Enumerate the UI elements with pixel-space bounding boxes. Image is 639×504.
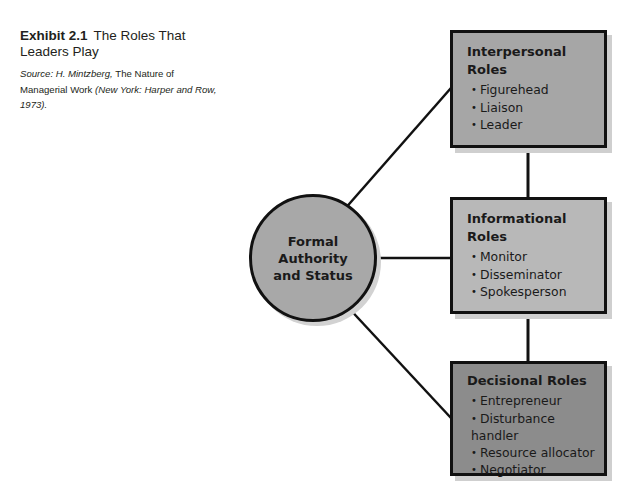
role-box-title: Informational Roles <box>467 210 604 246</box>
role-box-informational: Informational Roles •Monitor •Disseminat… <box>450 197 607 314</box>
bullet-icon: • <box>471 464 477 475</box>
role-item: •Leader <box>471 117 604 135</box>
role-list: •Monitor •Disseminator •Spokesperson <box>467 249 604 302</box>
role-item-label: Negotiator <box>480 462 546 477</box>
role-item-label: Spokesperson <box>480 284 567 299</box>
bullet-icon: • <box>471 286 477 297</box>
bullet-icon: • <box>471 413 477 424</box>
role-item-label: Entrepreneur <box>480 393 562 408</box>
role-item: •Spokesperson <box>471 284 604 302</box>
role-item: •Resource allocator <box>471 445 604 463</box>
role-item-label: Figurehead <box>480 82 549 97</box>
bullet-icon: • <box>471 269 477 280</box>
role-box-interpersonal: Interpersonal Roles •Figurehead •Liaison… <box>450 30 607 148</box>
role-item: •Negotiator <box>471 462 604 480</box>
role-item-label: Disseminator <box>480 267 562 282</box>
role-item-label: Liaison <box>480 100 523 115</box>
center-node-label: Formal Authority and Status <box>263 233 363 284</box>
connector-center-decisional <box>345 304 451 418</box>
role-box-title: Interpersonal Roles <box>467 43 604 79</box>
role-item: •Entrepreneur <box>471 393 604 411</box>
bullet-icon: • <box>471 119 477 130</box>
bullet-icon: • <box>471 447 477 458</box>
connector-center-interpersonal <box>343 88 451 211</box>
role-item: •Figurehead <box>471 82 604 100</box>
role-item: •Disturbance handler <box>471 411 604 445</box>
role-item-label: Leader <box>480 117 522 132</box>
bullet-icon: • <box>471 102 477 113</box>
bullet-icon: • <box>471 84 477 95</box>
role-item-label: Resource allocator <box>480 445 595 460</box>
role-box-title: Decisional Roles <box>467 372 604 390</box>
bullet-icon: • <box>471 251 477 262</box>
center-node-formal-authority: Formal Authority and Status <box>249 194 377 322</box>
role-item-label: Disturbance handler <box>471 411 555 444</box>
role-item: •Monitor <box>471 249 604 267</box>
role-box-decisional: Decisional Roles •Entrepreneur •Disturba… <box>450 361 607 476</box>
role-item: •Liaison <box>471 100 604 118</box>
role-list: •Figurehead •Liaison •Leader <box>467 82 604 135</box>
bullet-icon: • <box>471 395 477 406</box>
role-item-label: Monitor <box>480 249 527 264</box>
role-list: •Entrepreneur •Disturbance handler •Reso… <box>467 393 604 480</box>
role-item: •Disseminator <box>471 267 604 285</box>
